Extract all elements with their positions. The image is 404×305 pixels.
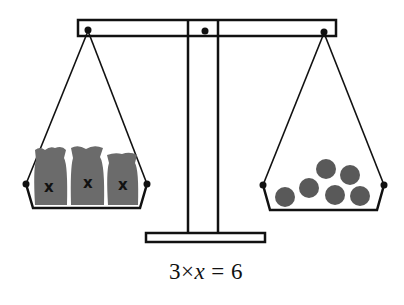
equation-rhs: 6 bbox=[231, 259, 243, 284]
equation: 3×x = 6 bbox=[0, 259, 404, 285]
left-pan-bags: x x x bbox=[34, 146, 138, 205]
ball-6 bbox=[350, 186, 370, 206]
scale-post bbox=[188, 36, 218, 233]
bag-x-1 bbox=[34, 147, 67, 205]
bag-label-1: x bbox=[44, 178, 54, 196]
scale-base bbox=[146, 233, 265, 242]
ball-3 bbox=[316, 159, 336, 179]
equation-equals: = bbox=[211, 259, 224, 284]
equation-coef: 3 bbox=[169, 259, 181, 284]
ball-5 bbox=[340, 165, 360, 185]
ball-2 bbox=[299, 178, 319, 198]
bag-label-2: x bbox=[83, 174, 93, 192]
equation-variable: x bbox=[194, 259, 205, 284]
ball-4 bbox=[325, 185, 345, 205]
bag-label-3: x bbox=[118, 176, 128, 194]
pivot-dot bbox=[202, 28, 209, 35]
right-pan-balls bbox=[275, 159, 370, 207]
equation-times: × bbox=[181, 259, 194, 284]
ball-1 bbox=[275, 187, 295, 207]
